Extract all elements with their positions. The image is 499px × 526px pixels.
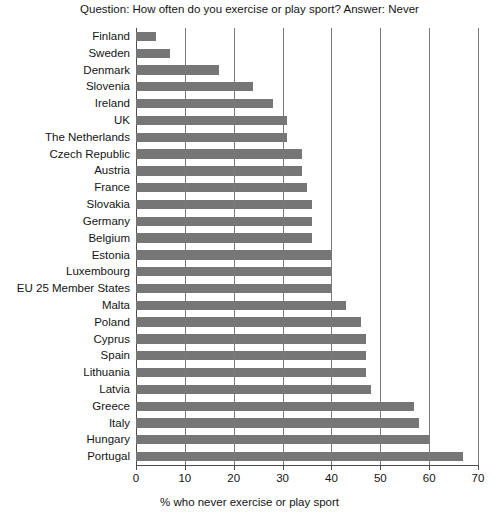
- bar-row: EU 25 Member States: [136, 280, 478, 297]
- gridline-20: [234, 28, 235, 465]
- tick-mark-70: [478, 465, 479, 470]
- bar-row: Portugal: [136, 448, 478, 465]
- tick-mark-30: [283, 465, 284, 470]
- tick-mark-40: [331, 465, 332, 470]
- bar-row: Germany: [136, 213, 478, 230]
- category-label: Portugal: [0, 448, 130, 465]
- category-label: Hungary: [0, 431, 130, 448]
- tick-mark-20: [234, 465, 235, 470]
- bar-row: Sweden: [136, 45, 478, 62]
- x-tick-label: 30: [263, 472, 303, 484]
- category-label: Spain: [0, 347, 130, 364]
- tick-mark-10: [185, 465, 186, 470]
- bar-row: Belgium: [136, 230, 478, 247]
- category-label: Austria: [0, 162, 130, 179]
- bar: [136, 149, 302, 158]
- gridline-60: [429, 28, 430, 465]
- bar: [136, 166, 302, 175]
- tick-mark-50: [380, 465, 381, 470]
- bar-row: Malta: [136, 297, 478, 314]
- bar-row: UK: [136, 112, 478, 129]
- bar-row: Italy: [136, 415, 478, 432]
- x-axis-line: [136, 465, 479, 466]
- bar: [136, 418, 419, 427]
- bar-row: Denmark: [136, 62, 478, 79]
- bar: [136, 317, 361, 326]
- x-tick-label: 10: [165, 472, 205, 484]
- bar-row: Greece: [136, 398, 478, 415]
- category-label: Germany: [0, 213, 130, 230]
- bar: [136, 301, 346, 310]
- x-tick-label: 50: [360, 472, 400, 484]
- x-tick-label: 0: [116, 472, 156, 484]
- gridline-50: [380, 28, 381, 465]
- bar-row: Estonia: [136, 247, 478, 264]
- bar-row: Lithuania: [136, 364, 478, 381]
- category-label: EU 25 Member States: [0, 280, 130, 297]
- category-label: Finland: [0, 28, 130, 45]
- category-label: Slovenia: [0, 78, 130, 95]
- x-tick-label: 40: [311, 472, 351, 484]
- plot-area: FinlandSwedenDenmarkSloveniaIrelandUKThe…: [136, 28, 478, 465]
- bar: [136, 233, 312, 242]
- bar-row: Latvia: [136, 381, 478, 398]
- gridline-30: [283, 28, 284, 465]
- bar-row: Luxembourg: [136, 263, 478, 280]
- category-label: The Netherlands: [0, 129, 130, 146]
- bar: [136, 200, 312, 209]
- bar: [136, 49, 170, 58]
- category-label: Italy: [0, 415, 130, 432]
- gridline-10: [185, 28, 186, 465]
- bar-row: The Netherlands: [136, 129, 478, 146]
- category-label: Cyprus: [0, 331, 130, 348]
- category-label: UK: [0, 112, 130, 129]
- bar: [136, 65, 219, 74]
- bar-row: Ireland: [136, 95, 478, 112]
- bar-row: Slovenia: [136, 78, 478, 95]
- x-axis-title: % who never exercise or play sport: [0, 496, 499, 508]
- tick-mark-0: [136, 465, 137, 470]
- category-label: Latvia: [0, 381, 130, 398]
- bar-row: Czech Republic: [136, 146, 478, 163]
- category-label: Slovakia: [0, 196, 130, 213]
- bar: [136, 385, 371, 394]
- category-label: Greece: [0, 398, 130, 415]
- category-label: Luxembourg: [0, 263, 130, 280]
- category-label: Sweden: [0, 45, 130, 62]
- category-label: Estonia: [0, 247, 130, 264]
- bar-row: Cyprus: [136, 331, 478, 348]
- bar-row: Finland: [136, 28, 478, 45]
- bar: [136, 32, 156, 41]
- category-label: Denmark: [0, 62, 130, 79]
- category-label: Poland: [0, 314, 130, 331]
- category-label: Belgium: [0, 230, 130, 247]
- category-label: Ireland: [0, 95, 130, 112]
- gridline-70: [478, 28, 479, 465]
- category-label: Czech Republic: [0, 146, 130, 163]
- bar-row: France: [136, 179, 478, 196]
- bar-chart: Question: How often do you exercise or p…: [0, 0, 499, 526]
- bar-row: Spain: [136, 347, 478, 364]
- category-label: Malta: [0, 297, 130, 314]
- bar: [136, 99, 273, 108]
- category-label: Lithuania: [0, 364, 130, 381]
- x-tick-label: 60: [409, 472, 449, 484]
- bar-row: Slovakia: [136, 196, 478, 213]
- chart-title: Question: How often do you exercise or p…: [0, 3, 499, 15]
- x-tick-label: 20: [214, 472, 254, 484]
- tick-mark-60: [429, 465, 430, 470]
- x-tick-label: 70: [458, 472, 498, 484]
- bar: [136, 116, 287, 125]
- bar: [136, 133, 287, 142]
- bar: [136, 183, 307, 192]
- bar-row: Hungary: [136, 431, 478, 448]
- gridline-40: [331, 28, 332, 465]
- bar-row: Austria: [136, 162, 478, 179]
- category-label: France: [0, 179, 130, 196]
- bar: [136, 82, 253, 91]
- bar-row: Poland: [136, 314, 478, 331]
- bar: [136, 217, 312, 226]
- bar: [136, 402, 414, 411]
